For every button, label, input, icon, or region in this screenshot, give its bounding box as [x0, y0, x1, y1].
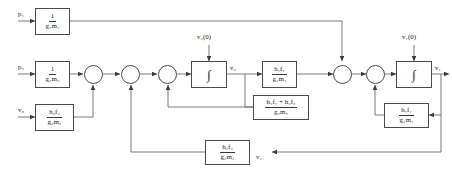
numerator: h₂f₂ — [220, 144, 235, 153]
integrator-block-v2[interactable]: ∫ — [191, 61, 227, 88]
denominator: g₂m₂ — [46, 118, 64, 126]
denominator: g₁m₁ — [271, 75, 289, 83]
summing-junction-1[interactable] — [84, 65, 103, 84]
numerator: h₁f₁ — [399, 107, 414, 116]
denominator: g₂m₂ — [44, 75, 62, 83]
summing-junction-2[interactable] — [121, 65, 140, 84]
denominator: g₁m₁ — [44, 22, 62, 30]
input-label-p2: p₂ — [18, 63, 24, 71]
integral-symbol: ∫ — [412, 67, 416, 83]
denominator: g₂m₂ — [219, 153, 237, 161]
fraction-h1f1-over-g1m1: h₁f₁ g₁m₁ — [398, 107, 416, 124]
denominator: g₁m₁ — [398, 116, 416, 124]
feedback-block-h1f1-g1m1[interactable]: h₁f₁ g₁m₁ — [384, 103, 429, 128]
block-diagram-canvas: 1 g₁m₁ 1 g₂m₂ h₂f₂ g₂m₂ ∫ h₁f₁ g₁m₁ ∫ h₁… — [0, 0, 452, 176]
input-label-v0: v₀ — [18, 106, 24, 114]
feedback-block-h2f2-g2m2[interactable]: h₂f₂ g₂m₂ — [205, 140, 250, 165]
summing-junction-3[interactable] — [158, 65, 177, 84]
integral-symbol: ∫ — [207, 67, 211, 83]
summing-junction-5[interactable] — [366, 65, 385, 84]
numerator: 1 — [49, 66, 57, 75]
fraction-h2f2-over-g2m2: h₂f₂ g₂m₂ — [46, 109, 64, 126]
gain-block-h1f1-g1m1-forward[interactable]: h₁f₁ g₁m₁ — [262, 61, 297, 88]
denominator: g₂m₂ — [272, 108, 290, 116]
gain-block-v0[interactable]: h₂f₂ g₂m₂ — [35, 104, 74, 131]
feedback-tap-label-v1: v₁ — [256, 153, 262, 161]
fraction-1-over-g2m2: 1 g₂m₂ — [44, 66, 62, 83]
fraction-h1f1-over-g1m1: h₁f₁ g₁m₁ — [271, 66, 289, 83]
numerator: 1 — [49, 13, 57, 22]
initial-condition-label-v1: v₁(0) — [402, 33, 416, 41]
input-label-p1: p₁ — [18, 10, 24, 18]
numerator: h₁f₁ + h₂f₂ — [265, 99, 298, 108]
integrator-block-v1[interactable]: ∫ — [396, 61, 432, 88]
fraction-h1f1-plus-h2f2-over-g2m2: h₁f₁ + h₂f₂ g₂m₂ — [265, 99, 298, 116]
summing-junction-4[interactable] — [333, 65, 352, 84]
fraction-1-over-g1m1: 1 g₁m₁ — [44, 13, 62, 30]
gain-block-p1[interactable]: 1 g₁m₁ — [35, 8, 70, 35]
numerator: h₂f₂ — [47, 109, 62, 118]
feedback-block-h1f1-plus-h2f2[interactable]: h₁f₁ + h₂f₂ g₂m₂ — [253, 95, 309, 120]
gain-block-p2[interactable]: 1 g₂m₂ — [35, 61, 70, 88]
fraction-h2f2-over-g2m2: h₂f₂ g₂m₂ — [219, 144, 237, 161]
output-label-v2: v₂ — [230, 64, 236, 72]
initial-condition-label-v2: v₂(0) — [197, 33, 211, 41]
output-label-v1: v₁ — [435, 64, 441, 72]
numerator: h₁f₁ — [272, 66, 287, 75]
